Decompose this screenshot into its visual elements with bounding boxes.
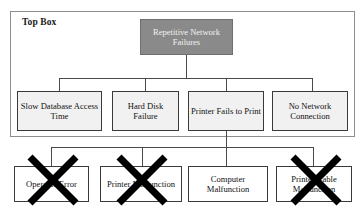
connector-level3-bus [51,147,313,148]
connector-level3-drop-4 [313,147,314,166]
top-box-label: Top Box [22,17,56,27]
connector-root-stem [186,55,187,78]
connector-printer-fails-stem [226,131,227,166]
node-root-label: Repetitive Network Failures [141,27,232,47]
fault-tree-diagram: Top Box Repetitive Network Failures Slow… [0,0,364,209]
connector-level3-drop-1 [51,147,52,166]
connector-level2-bus [59,78,312,79]
connector-level2-drop-4 [312,78,313,91]
node-hard-disk-failure[interactable]: Hard Disk Failure [112,91,179,131]
connector-level2-drop-3 [226,78,227,91]
node-root[interactable]: Repetitive Network Failures [140,19,233,55]
connector-level2-drop-1 [59,78,60,91]
node-printer-cable-malfunction[interactable]: Printer Cable Malfunction [276,166,352,202]
connector-level2-drop-2 [145,78,146,91]
node-operator-error[interactable]: Operator Error [14,166,89,202]
node-computer-malfunction[interactable]: Computer Malfunction [188,166,268,202]
connector-level3-drop-2 [142,147,143,166]
node-no-network-connection[interactable]: No Network Connection [272,91,348,131]
node-slow-database-access-time[interactable]: Slow Database Access Time [17,91,102,131]
node-printer-malfunction[interactable]: Printer Malfunction [100,166,182,202]
node-printer-fails-to-print[interactable]: Printer Fails to Print [188,91,264,131]
